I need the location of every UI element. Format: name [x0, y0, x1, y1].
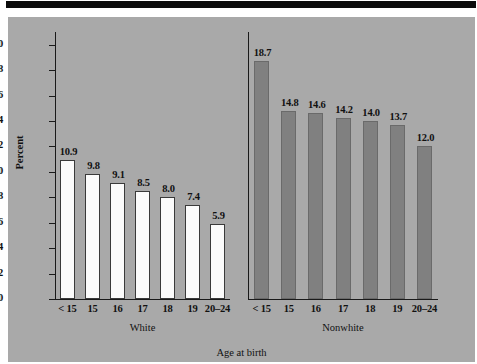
bar [135, 191, 150, 299]
y-tick-label-6: 6 [0, 216, 3, 227]
y-tick-label-0: 0 [0, 292, 3, 303]
y-tick-4 [49, 248, 56, 249]
bar [336, 118, 351, 299]
group-label-nonwhite: Nonwhite [248, 322, 438, 333]
y-tick-label-20: 20 [0, 38, 3, 49]
bar-value-label: 9.1 [107, 169, 131, 180]
bar [308, 113, 323, 299]
y-tick-label-12: 12 [0, 139, 3, 150]
bar [60, 160, 75, 299]
y-tick-18 [49, 70, 56, 71]
bar-value-label: 14.8 [278, 97, 302, 108]
y-tick-2 [49, 274, 56, 275]
bar-value-label: 14.2 [332, 104, 356, 115]
bar-value-label: 18.7 [251, 47, 275, 58]
y-axis-line [55, 32, 56, 300]
y-tick-14 [49, 121, 56, 122]
bar [254, 61, 269, 299]
bar [160, 197, 175, 299]
x-tick-label: 20–24 [202, 303, 234, 314]
group-label-white: White [55, 322, 230, 333]
bar-value-label: 12.0 [413, 132, 437, 143]
y-tick-12 [49, 146, 56, 147]
bar [390, 125, 405, 299]
chart-plate: 02468101214161820 Percent 10.99.89.18.58… [8, 17, 475, 362]
y-tick-0 [49, 299, 56, 300]
bar-value-label: 5.9 [207, 210, 231, 221]
scan-edge-bar [6, 1, 476, 8]
bar-value-label: 13.7 [386, 111, 410, 122]
y-axis-title: Percent [14, 123, 25, 183]
x-axis-title: Age at birth [8, 347, 475, 358]
bar-value-label: 9.8 [82, 160, 106, 171]
y-tick-label-4: 4 [0, 241, 3, 252]
y-tick-6 [49, 223, 56, 224]
bar-value-label: 8.5 [132, 177, 156, 188]
panel-divider-line [248, 32, 249, 300]
y-tick-20 [49, 45, 56, 46]
bar [417, 146, 432, 299]
y-tick-label-18: 18 [0, 63, 3, 74]
y-tick-label-8: 8 [0, 190, 3, 201]
bar [185, 205, 200, 299]
bar-value-label: 14.6 [305, 99, 329, 110]
bar-value-label: 10.9 [57, 146, 81, 157]
y-tick-label-14: 14 [0, 114, 3, 125]
bar-value-label: 8.0 [157, 183, 181, 194]
bar [281, 111, 296, 299]
y-tick-label-16: 16 [0, 89, 3, 100]
bar [363, 121, 378, 299]
figure-root: 02468101214161820 Percent 10.99.89.18.58… [0, 0, 477, 364]
y-tick-8 [49, 197, 56, 198]
bar [85, 174, 100, 299]
bar [110, 183, 125, 299]
y-tick-label-10: 10 [0, 165, 3, 176]
y-tick-10 [49, 172, 56, 173]
y-tick-label-2: 2 [0, 267, 3, 278]
x-tick-label: 20–24 [408, 303, 440, 314]
panel-nonwhite: 18.714.814.614.214.013.712.0 < 151516171… [248, 17, 475, 362]
bar-value-label: 7.4 [182, 191, 206, 202]
bar-value-label: 14.0 [359, 107, 383, 118]
y-tick-16 [49, 96, 56, 97]
x-axis-line-nonwhite [248, 299, 438, 300]
x-axis-line-white [55, 299, 230, 300]
bar [210, 224, 225, 299]
panel-white: 02468101214161820 Percent 10.99.89.18.58… [8, 17, 248, 362]
